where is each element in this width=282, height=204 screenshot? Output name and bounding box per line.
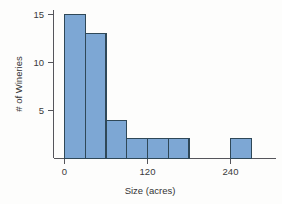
y-tick-label-5: 5: [39, 105, 44, 116]
histogram-bar: [65, 15, 86, 159]
histogram-figure: 15 10 5 0 120 240 # of Wineries Size (ac…: [0, 0, 282, 204]
y-tick-label-15: 15: [33, 9, 44, 20]
x-tick-label-0: 0: [62, 166, 67, 177]
histogram-plot-area: 15 10 5 0 120 240 # of Wineries Size (ac…: [0, 0, 282, 204]
histogram-bar: [168, 139, 189, 159]
x-tick-label-120: 120: [140, 166, 156, 177]
histogram-bar: [231, 139, 252, 159]
histogram-bar: [127, 139, 148, 159]
histogram-bar: [85, 34, 106, 159]
y-axis-title: # of Wineries: [13, 56, 24, 112]
x-tick-label-240: 240: [223, 166, 239, 177]
histogram-bar: [148, 139, 169, 159]
y-tick-label-10: 10: [33, 57, 44, 68]
x-axis-title: Size (acres): [125, 185, 176, 196]
histogram-bar: [106, 120, 127, 158]
